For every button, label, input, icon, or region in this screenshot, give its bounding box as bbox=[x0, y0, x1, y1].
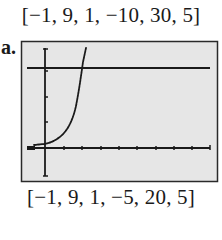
bottom-window-label: [−1, 9, 1, −5, 20, 5] bbox=[0, 182, 222, 212]
axis-stub bbox=[27, 146, 35, 150]
screen-frame bbox=[22, 42, 218, 182]
